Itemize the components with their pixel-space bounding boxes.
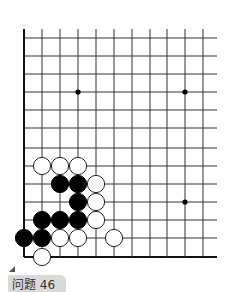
black-stone[interactable]: [69, 193, 86, 210]
corner-triangle-icon: [9, 266, 15, 272]
white-stone[interactable]: [87, 211, 104, 228]
star-point-icon: [182, 199, 187, 204]
black-stone[interactable]: [69, 175, 86, 192]
white-stone[interactable]: [87, 193, 104, 210]
black-stone[interactable]: [51, 211, 68, 228]
white-stone[interactable]: [33, 157, 50, 174]
go-board: [0, 0, 236, 270]
star-point-icon: [75, 89, 80, 94]
white-stone[interactable]: [69, 157, 86, 174]
star-point-icon: [182, 89, 187, 94]
black-stone[interactable]: [51, 175, 68, 192]
white-stone[interactable]: [69, 229, 86, 246]
black-stone[interactable]: [69, 211, 86, 228]
stones: [15, 157, 122, 265]
white-stone[interactable]: [33, 248, 50, 265]
black-stone[interactable]: [15, 229, 32, 246]
black-stone[interactable]: [33, 211, 50, 228]
problem-label-tab: 问题 46: [8, 275, 66, 292]
white-stone[interactable]: [51, 229, 68, 246]
white-stone[interactable]: [87, 175, 104, 192]
black-stone[interactable]: [33, 229, 50, 246]
white-stone[interactable]: [51, 157, 68, 174]
white-stone[interactable]: [105, 229, 122, 246]
problem-label: 问题 46: [12, 275, 55, 292]
